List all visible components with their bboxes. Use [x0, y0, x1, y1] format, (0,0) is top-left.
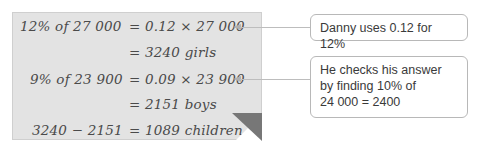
note-row-2-right: = 3240 girls — [129, 44, 216, 60]
note-row-5-right: = 1089 children — [129, 122, 243, 138]
callout-check-line-2: by finding 10% of — [320, 78, 458, 94]
callout-check-line-1: He checks his answer — [320, 62, 458, 78]
callout-decimal: Danny uses 0.12 for 12% — [310, 14, 468, 41]
note-row-1-right: = 0.12 × 27 000 — [129, 18, 245, 34]
note-row-5-left: 3240 − 2151 — [32, 122, 123, 138]
callout-decimal-text: Danny uses 0.12 for 12% — [320, 21, 432, 51]
connector-line-2 — [240, 79, 310, 80]
note-row-1-left: 12% of 27 000 — [20, 18, 122, 34]
page-fold-icon — [232, 113, 262, 141]
note-row-3-right: = 0.09 × 23 900 — [129, 71, 245, 87]
callout-check-line-3: 24 000 = 2400 — [320, 94, 458, 110]
callout-check: He checks his answer by finding 10% of 2… — [310, 56, 468, 118]
connector-line-1 — [240, 27, 310, 28]
note-row-3-left: 9% of 23 900 — [30, 71, 123, 87]
note-row-4-right: = 2151 boys — [129, 96, 217, 112]
